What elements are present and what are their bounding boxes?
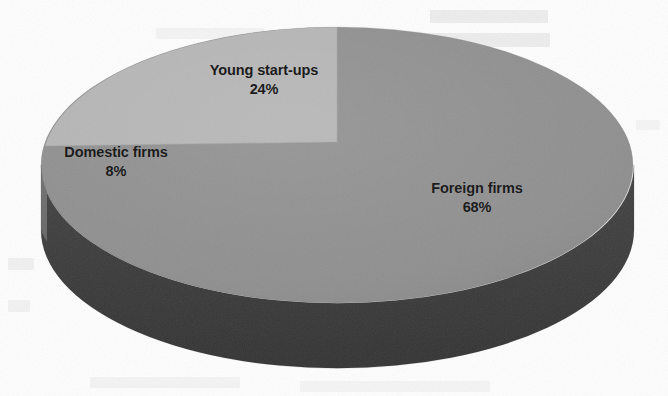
- pie-label-young-startups: Young start-ups 24%: [188, 61, 340, 98]
- pie-label-foreign-firms: Foreign firms 68%: [409, 179, 545, 216]
- pie-3d-graphic: [0, 0, 668, 396]
- pie-label-domestic-firms-percent: 8%: [44, 162, 188, 181]
- pie-label-domestic-firms: Domestic firms 8%: [44, 143, 188, 180]
- pie-label-young-startups-percent: 24%: [188, 80, 340, 99]
- pie-label-domestic-firms-name: Domestic firms: [64, 144, 167, 160]
- pie-label-foreign-firms-name: Foreign firms: [431, 180, 522, 196]
- pie-label-foreign-firms-percent: 68%: [409, 198, 545, 217]
- pie-label-young-startups-name: Young start-ups: [210, 62, 319, 78]
- pie-chart-figure: Young start-ups 24% Domestic firms 8% Fo…: [0, 0, 668, 396]
